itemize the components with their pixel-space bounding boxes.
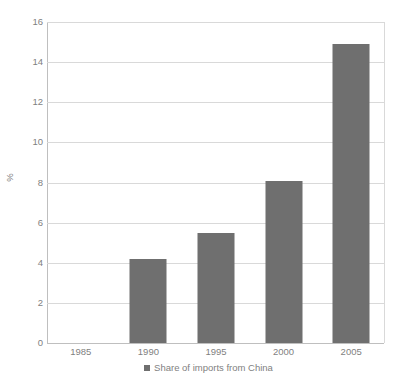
bar[interactable] [333, 44, 370, 343]
x-axis-tick-label: 2000 [254, 346, 314, 358]
x-axis-tick-labels: 19851990199520002005 [47, 346, 385, 362]
chart-legend: Share of imports from China [0, 362, 417, 373]
bar-slot [47, 22, 115, 343]
gridline [47, 343, 384, 344]
bar[interactable] [197, 233, 234, 343]
x-axis-tick-label: 1990 [118, 346, 178, 358]
bar-chart: % 0246810121416 19851990199520002005 Sha… [0, 0, 417, 382]
x-axis-tick-label: 1985 [51, 346, 111, 358]
bar[interactable] [130, 259, 167, 343]
legend-label: Share of imports from China [154, 362, 273, 373]
y-axis-tick-labels: 0246810121416 [0, 22, 43, 343]
y-axis-tick-label: 2 [5, 298, 43, 308]
bars-layer [47, 22, 385, 343]
square-marker-icon [144, 365, 150, 371]
x-axis-tick-label: 2005 [321, 346, 381, 358]
y-axis-tick-label: 10 [5, 137, 43, 147]
x-axis-tick-label: 1995 [186, 346, 246, 358]
legend-item[interactable]: Share of imports from China [144, 362, 273, 373]
bar-slot [182, 22, 250, 343]
y-axis-tick-label: 14 [5, 57, 43, 67]
y-axis-tick-label: 8 [5, 178, 43, 188]
y-axis-tick-label: 12 [5, 97, 43, 107]
bar-slot [317, 22, 385, 343]
bar-slot [115, 22, 183, 343]
y-axis-tick-label: 16 [5, 17, 43, 27]
bar-slot [250, 22, 318, 343]
y-axis-tick-label: 6 [5, 218, 43, 228]
y-axis-tick-label: 0 [5, 338, 43, 348]
y-axis-tick-label: 4 [5, 258, 43, 268]
bar[interactable] [265, 181, 302, 344]
